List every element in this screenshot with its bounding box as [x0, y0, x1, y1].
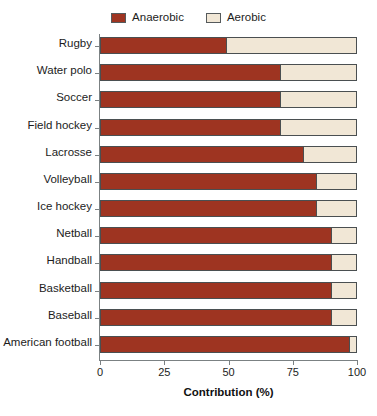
bar-segment-aerobic	[100, 282, 357, 299]
legend-label-aerobic: Aerobic	[227, 12, 266, 24]
bar-row: Baseball	[100, 306, 357, 333]
legend-swatch-anaerobic	[111, 13, 126, 23]
bar-segment-anaerobic	[101, 201, 317, 216]
legend-label-anaerobic: Anaerobic	[132, 12, 184, 24]
bar-row: American football	[100, 333, 357, 360]
plot-area: RugbyWater poloSoccerField hockeyLacross…	[100, 34, 357, 360]
x-axis-tick	[100, 360, 101, 365]
category-label: American football	[3, 337, 92, 349]
category-label: Rugby	[59, 38, 92, 50]
category-label: Soccer	[56, 92, 92, 104]
bar-segment-aerobic	[100, 119, 357, 136]
category-label: Field hockey	[27, 120, 92, 132]
bar-row: Basketball	[100, 279, 357, 306]
bar-row: Handball	[100, 251, 357, 278]
bar-segment-aerobic	[100, 64, 357, 81]
bar-segment-anaerobic	[101, 310, 332, 325]
bar-segment-anaerobic	[101, 228, 332, 243]
x-axis-tick	[229, 360, 230, 365]
bar-row: Ice hockey	[100, 197, 357, 224]
x-axis-tick-label: 100	[348, 367, 366, 378]
x-axis-tick	[164, 360, 165, 365]
bar-segment-anaerobic	[101, 120, 281, 135]
bar-segment-aerobic	[100, 227, 357, 244]
bar-row: Lacrosse	[100, 143, 357, 170]
bar-row: Water polo	[100, 61, 357, 88]
x-axis-tick-label: 50	[222, 367, 234, 378]
bar-segment-anaerobic	[101, 92, 281, 107]
x-axis-tick	[293, 360, 294, 365]
category-label: Netball	[56, 228, 92, 240]
bar-segment-aerobic	[100, 336, 357, 353]
bar-segment-anaerobic	[101, 337, 350, 352]
x-axis-tick-label: 75	[287, 367, 299, 378]
bar-segment-aerobic	[100, 173, 357, 190]
category-label: Water polo	[37, 65, 92, 77]
bar-segment-anaerobic	[101, 38, 227, 53]
bar-segment-anaerobic	[101, 255, 332, 270]
bar-segment-aerobic	[100, 254, 357, 271]
bar-segment-aerobic	[100, 37, 357, 54]
x-axis-tick-label: 0	[97, 367, 103, 378]
bar-row: Field hockey	[100, 116, 357, 143]
bar-segment-aerobic	[100, 91, 357, 108]
stacked-bar-chart: Anaerobic Aerobic RugbyWater poloSoccerF…	[0, 0, 377, 416]
legend-entry-aerobic: Aerobic	[206, 12, 266, 24]
bar-segment-anaerobic	[101, 283, 332, 298]
x-axis-tick	[357, 360, 358, 365]
bar-row: Soccer	[100, 88, 357, 115]
bar-segment-aerobic	[100, 200, 357, 217]
legend-entry-anaerobic: Anaerobic	[111, 12, 184, 24]
category-label: Baseball	[48, 310, 92, 322]
x-axis-tick-label: 25	[158, 367, 170, 378]
bar-row: Rugby	[100, 34, 357, 61]
bar-segment-aerobic	[100, 146, 357, 163]
x-axis-title: Contribution (%)	[100, 386, 357, 398]
bar-segment-anaerobic	[101, 65, 281, 80]
category-label: Basketball	[39, 283, 92, 295]
category-label: Volleyball	[43, 174, 92, 186]
category-label: Ice hockey	[37, 201, 92, 213]
category-label: Handball	[47, 255, 92, 267]
bar-segment-anaerobic	[101, 174, 317, 189]
bar-segment-anaerobic	[101, 147, 304, 162]
category-label: Lacrosse	[45, 147, 92, 159]
bar-row: Netball	[100, 224, 357, 251]
chart-legend: Anaerobic Aerobic	[0, 12, 377, 24]
legend-swatch-aerobic	[206, 13, 221, 23]
bar-segment-aerobic	[100, 309, 357, 326]
bar-row: Volleyball	[100, 170, 357, 197]
